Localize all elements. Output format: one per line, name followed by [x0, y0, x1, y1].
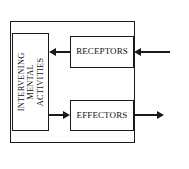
connector-line: [49, 114, 64, 116]
arrow-head-right-icon: [63, 111, 70, 119]
connector-line: [55, 51, 70, 53]
intervening-mental-activities-label: INTERVENING MENTAL ACTIVITIES: [17, 53, 45, 112]
effectors-label: EFFECTORS: [77, 111, 128, 120]
connector-line: [134, 114, 158, 116]
connector-line: [140, 51, 170, 53]
external-environment-caption: EXTERNAL ENVIRONMENT: [167, 160, 181, 169]
arrow-head-left-icon: [134, 48, 141, 56]
diagram-canvas: INTERVENING MENTAL ACTIVITIES RECEPTORS …: [0, 0, 189, 169]
arrow-head-left-icon: [49, 48, 56, 56]
node-effectors: EFFECTORS: [70, 100, 134, 131]
arrow-head-right-icon: [157, 111, 164, 119]
receptors-label: RECEPTORS: [76, 47, 128, 56]
mental-label-line-2: MENTAL: [26, 53, 35, 112]
mental-label-line-1: INTERVENING: [17, 53, 26, 112]
node-intervening-mental-activities: INTERVENING MENTAL ACTIVITIES: [12, 33, 49, 131]
node-receptors: RECEPTORS: [70, 36, 134, 68]
mental-label-line-3: ACTIVITIES: [35, 53, 44, 112]
